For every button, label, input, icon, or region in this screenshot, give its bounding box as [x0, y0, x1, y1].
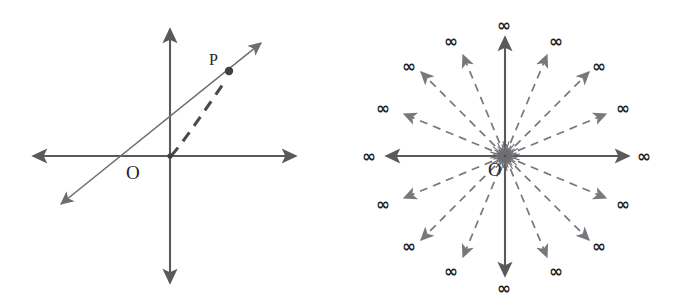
ray-ese — [505, 114, 606, 156]
right-diagram-panel: O ∞ ∞ ∞ ∞ ∞ ∞ ∞ ∞ ∞ ∞ ∞ ∞ ∞ ∞ ∞ ∞ — [340, 0, 681, 308]
infinity-label-sw: ∞ — [402, 238, 416, 255]
ray-nnw — [463, 55, 505, 156]
ray-wnw — [404, 114, 505, 156]
infinity-label-w: ∞ — [362, 148, 376, 165]
origin-label-left: O — [126, 163, 140, 182]
infinity-label-ne: ∞ — [592, 58, 606, 75]
right-diagram-svg — [340, 0, 681, 308]
infinity-label-s: ∞ — [497, 280, 511, 297]
point-p-label: P — [209, 52, 218, 68]
diagonal-line — [61, 43, 261, 204]
infinity-label-nw: ∞ — [402, 58, 416, 75]
infinity-label-n: ∞ — [497, 17, 511, 34]
infinity-label-nne: ∞ — [549, 33, 563, 50]
infinity-label-ene: ∞ — [616, 100, 630, 117]
origin-label-right: O — [488, 160, 502, 179]
left-diagram-panel: O P — [0, 0, 340, 308]
infinity-label-ese: ∞ — [616, 196, 630, 213]
ray-nw — [421, 72, 505, 156]
dashed-chord-origin-to-p — [171, 80, 226, 156]
left-diagram-svg — [0, 0, 340, 308]
ray-ene — [505, 156, 606, 198]
infinity-label-sse: ∞ — [549, 263, 563, 280]
ray-se — [505, 156, 589, 240]
infinity-label-wsw: ∞ — [376, 196, 390, 213]
ray-ne — [505, 72, 589, 156]
infinity-label-ssw: ∞ — [444, 263, 458, 280]
point-p-dot — [225, 67, 233, 75]
ray-sse — [505, 156, 547, 257]
infinity-label-wnw: ∞ — [376, 100, 390, 117]
infinity-label-nnw: ∞ — [444, 33, 458, 50]
figure-root: O P — [0, 0, 681, 308]
origin-dot — [167, 153, 172, 158]
infinity-label-e: ∞ — [637, 148, 651, 165]
infinity-label-se: ∞ — [592, 238, 606, 255]
ray-nne — [505, 55, 547, 156]
